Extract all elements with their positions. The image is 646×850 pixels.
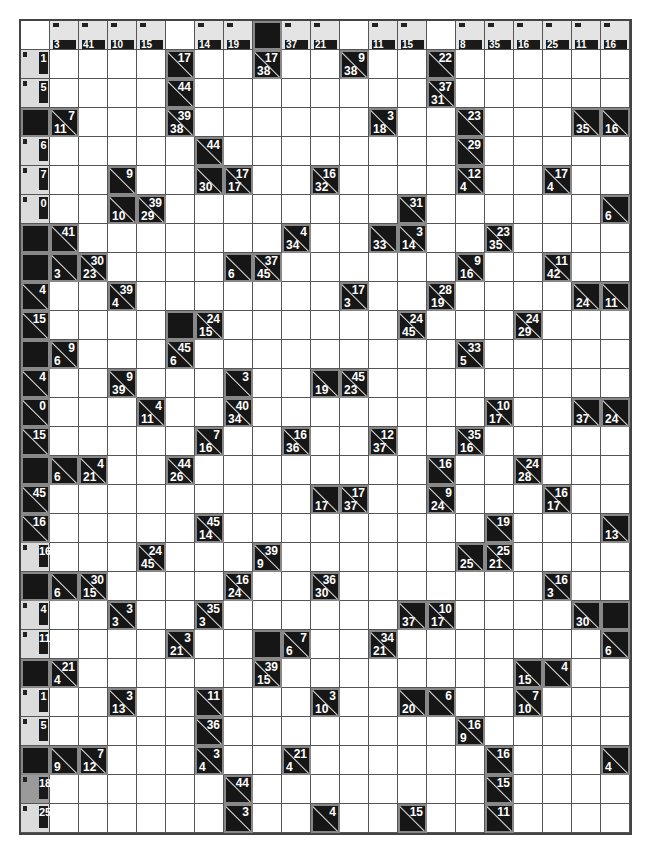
white-cell[interactable] (108, 427, 137, 456)
white-cell[interactable] (253, 108, 282, 137)
white-cell[interactable] (572, 311, 601, 340)
white-cell[interactable] (456, 79, 485, 108)
white-cell[interactable] (79, 804, 108, 833)
white-cell[interactable] (601, 717, 630, 746)
white-cell[interactable] (166, 398, 195, 427)
white-cell[interactable] (166, 166, 195, 195)
white-cell[interactable] (514, 601, 543, 630)
white-cell[interactable] (485, 659, 514, 688)
white-cell[interactable] (369, 688, 398, 717)
white-cell[interactable] (282, 601, 311, 630)
white-cell[interactable] (485, 456, 514, 485)
white-cell[interactable] (485, 311, 514, 340)
white-cell[interactable] (398, 485, 427, 514)
white-cell[interactable] (137, 50, 166, 79)
white-cell[interactable] (572, 746, 601, 775)
white-cell[interactable] (514, 543, 543, 572)
white-cell[interactable] (311, 340, 340, 369)
white-cell[interactable] (50, 543, 79, 572)
white-cell[interactable] (340, 427, 369, 456)
white-cell[interactable] (572, 572, 601, 601)
white-cell[interactable] (108, 659, 137, 688)
white-cell[interactable] (485, 485, 514, 514)
white-cell[interactable] (601, 79, 630, 108)
white-cell[interactable] (195, 50, 224, 79)
white-cell[interactable] (282, 253, 311, 282)
white-cell[interactable] (253, 746, 282, 775)
white-cell[interactable] (50, 369, 79, 398)
white-cell[interactable] (601, 688, 630, 717)
white-cell[interactable] (485, 427, 514, 456)
white-cell[interactable] (514, 485, 543, 514)
white-cell[interactable] (485, 137, 514, 166)
white-cell[interactable] (166, 282, 195, 311)
white-cell[interactable] (340, 398, 369, 427)
white-cell[interactable] (369, 746, 398, 775)
white-cell[interactable] (340, 224, 369, 253)
white-cell[interactable] (50, 630, 79, 659)
white-cell[interactable] (369, 514, 398, 543)
white-cell[interactable] (108, 746, 137, 775)
white-cell[interactable] (340, 804, 369, 833)
white-cell[interactable] (195, 543, 224, 572)
white-cell[interactable] (543, 340, 572, 369)
white-cell[interactable] (50, 485, 79, 514)
white-cell[interactable] (485, 688, 514, 717)
white-cell[interactable] (601, 311, 630, 340)
white-cell[interactable] (282, 804, 311, 833)
white-cell[interactable] (195, 775, 224, 804)
white-cell[interactable] (572, 369, 601, 398)
white-cell[interactable] (311, 224, 340, 253)
white-cell[interactable] (108, 514, 137, 543)
white-cell[interactable] (224, 137, 253, 166)
white-cell[interactable] (543, 398, 572, 427)
white-cell[interactable] (398, 717, 427, 746)
white-cell[interactable] (427, 311, 456, 340)
white-cell[interactable] (195, 659, 224, 688)
white-cell[interactable] (456, 688, 485, 717)
white-cell[interactable] (108, 340, 137, 369)
white-cell[interactable] (282, 79, 311, 108)
white-cell[interactable] (79, 427, 108, 456)
white-cell[interactable] (282, 775, 311, 804)
white-cell[interactable] (543, 601, 572, 630)
white-cell[interactable] (601, 427, 630, 456)
white-cell[interactable] (398, 543, 427, 572)
white-cell[interactable] (195, 340, 224, 369)
white-cell[interactable] (572, 166, 601, 195)
white-cell[interactable] (108, 485, 137, 514)
white-cell[interactable] (137, 137, 166, 166)
white-cell[interactable] (50, 514, 79, 543)
white-cell[interactable] (311, 195, 340, 224)
white-cell[interactable] (369, 659, 398, 688)
white-cell[interactable] (195, 572, 224, 601)
white-cell[interactable] (282, 659, 311, 688)
white-cell[interactable] (224, 659, 253, 688)
white-cell[interactable] (427, 630, 456, 659)
white-cell[interactable] (369, 485, 398, 514)
white-cell[interactable] (514, 369, 543, 398)
white-cell[interactable] (340, 311, 369, 340)
white-cell[interactable] (79, 282, 108, 311)
white-cell[interactable] (195, 282, 224, 311)
white-cell[interactable] (514, 804, 543, 833)
white-cell[interactable] (195, 195, 224, 224)
white-cell[interactable] (137, 630, 166, 659)
white-cell[interactable] (601, 253, 630, 282)
white-cell[interactable] (572, 514, 601, 543)
white-cell[interactable] (572, 804, 601, 833)
white-cell[interactable] (456, 572, 485, 601)
white-cell[interactable] (253, 79, 282, 108)
white-cell[interactable] (253, 166, 282, 195)
white-cell[interactable] (79, 543, 108, 572)
white-cell[interactable] (340, 340, 369, 369)
white-cell[interactable] (224, 514, 253, 543)
white-cell[interactable] (398, 79, 427, 108)
white-cell[interactable] (282, 514, 311, 543)
white-cell[interactable] (543, 543, 572, 572)
white-cell[interactable] (195, 485, 224, 514)
white-cell[interactable] (311, 746, 340, 775)
white-cell[interactable] (166, 688, 195, 717)
white-cell[interactable] (398, 282, 427, 311)
white-cell[interactable] (398, 50, 427, 79)
